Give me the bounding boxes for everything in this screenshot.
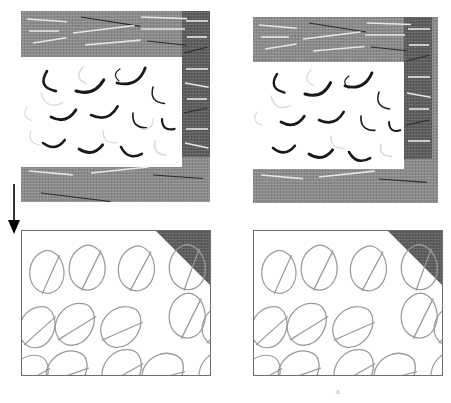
panel-bottom-left[interactable] bbox=[21, 230, 211, 376]
transition-arrow-down bbox=[3, 184, 25, 236]
core-region-top-left bbox=[21, 57, 182, 167]
core-region-top-right bbox=[253, 62, 404, 169]
panel-top-right[interactable] bbox=[253, 17, 438, 203]
corner-inclusion-bottom-right bbox=[388, 231, 442, 285]
leaf-group bbox=[21, 242, 211, 376]
figure-caption: a bbox=[336, 388, 340, 395]
figure-stage: a bbox=[0, 0, 451, 403]
panel-bottom-right[interactable] bbox=[253, 230, 443, 376]
panel-top-left[interactable] bbox=[21, 11, 210, 202]
dark-inclusion-strip-top-right bbox=[404, 17, 432, 159]
dark-inclusion-strip-top-left bbox=[182, 11, 210, 157]
leaf-group bbox=[253, 242, 443, 376]
corner-inclusion-bottom-left bbox=[156, 231, 210, 285]
